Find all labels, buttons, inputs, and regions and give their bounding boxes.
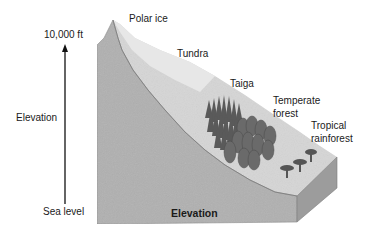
zone-label-taiga: Taiga bbox=[230, 78, 254, 89]
axis-bottom-label: Sea level bbox=[43, 206, 84, 217]
base-elevation-label: Elevation bbox=[171, 208, 218, 219]
zone-label-tundra: Tundra bbox=[177, 48, 208, 59]
axis-top-label: 10,000 ft bbox=[44, 29, 83, 40]
zone-label-tropical-rainforest-line2: rainforest bbox=[311, 133, 353, 144]
zone-label-temperate-forest-line2: forest bbox=[273, 108, 298, 119]
zone-label-tropical-rainforest-line1: Tropical bbox=[311, 120, 346, 131]
zone-label-temperate-forest-line1: Temperate bbox=[273, 95, 320, 106]
zone-label-polar-ice: Polar ice bbox=[129, 13, 168, 24]
axis-middle-label: Elevation bbox=[16, 112, 57, 123]
elevation-arrow-head bbox=[62, 44, 68, 52]
